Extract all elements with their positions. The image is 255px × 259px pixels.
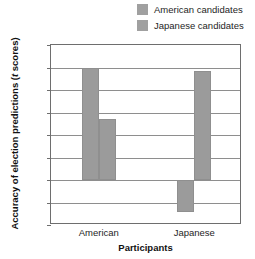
y-axis-tick-mark: [47, 203, 51, 204]
y-axis-tick-mark: [47, 180, 51, 181]
y-axis-title-suffix: scores): [9, 37, 20, 73]
y-axis-tick-mark: [47, 225, 51, 226]
plot-area: 32.521.510.50−0.5−1AmericanJapanese: [50, 44, 241, 224]
gridline: [51, 90, 240, 91]
y-axis-tick-mark: [47, 113, 51, 114]
gridline: [51, 135, 240, 136]
y-axis-tick-mark: [47, 45, 51, 46]
y-axis-tick-mark: [47, 158, 51, 159]
gridline: [51, 180, 240, 181]
bar: [177, 180, 194, 212]
gridline: [51, 158, 240, 159]
bar: [99, 119, 116, 180]
legend-swatch-icon: [137, 20, 148, 31]
legend-label: Japanese candidates: [154, 20, 244, 31]
bar-chart-figure: American candidates Japanese candidates …: [0, 0, 255, 259]
y-axis-tick-mark: [47, 68, 51, 69]
legend-swatch-icon: [137, 4, 148, 15]
y-axis-title-italic: t: [9, 74, 20, 77]
legend-item-american-candidates: American candidates: [137, 2, 255, 16]
y-axis-tick-mark: [47, 90, 51, 91]
bar: [194, 71, 211, 180]
y-axis-tick-mark: [47, 135, 51, 136]
legend-item-japanese-candidates: Japanese candidates: [137, 18, 255, 32]
legend-label: American candidates: [154, 4, 243, 15]
gridline: [51, 203, 240, 204]
y-axis-title-prefix: Accuracy of election predictions (: [9, 77, 20, 230]
x-axis-tick-label: Japanese: [154, 227, 234, 238]
gridline: [51, 68, 240, 69]
chart-legend: American candidates Japanese candidates: [137, 2, 255, 34]
y-axis-title: Accuracy of election predictions (t scor…: [9, 36, 20, 232]
x-axis-title: Participants: [50, 242, 241, 253]
gridline: [51, 113, 240, 114]
x-axis-tick-label: American: [59, 227, 139, 238]
bar: [82, 68, 99, 180]
